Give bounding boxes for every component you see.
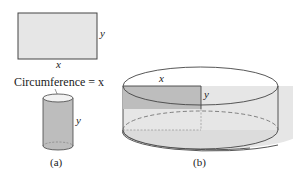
radius-label: x	[158, 72, 164, 84]
caption-a: (a)	[50, 156, 63, 169]
radial-rectangle	[123, 86, 201, 109]
large-cylinder-height-label: y	[203, 88, 209, 100]
small-cylinder-top	[43, 94, 73, 102]
rectangle-width-label: x	[55, 58, 61, 70]
circumference-label: Circumference = x	[14, 75, 104, 89]
small-cylinder-height-label: y	[75, 114, 81, 126]
rectangle-shape	[18, 13, 97, 59]
diagram-canvas: x y Circumference = x y (a) x y (b)	[0, 0, 293, 182]
rectangle-height-label: y	[99, 27, 105, 39]
caption-b: (b)	[193, 156, 206, 169]
